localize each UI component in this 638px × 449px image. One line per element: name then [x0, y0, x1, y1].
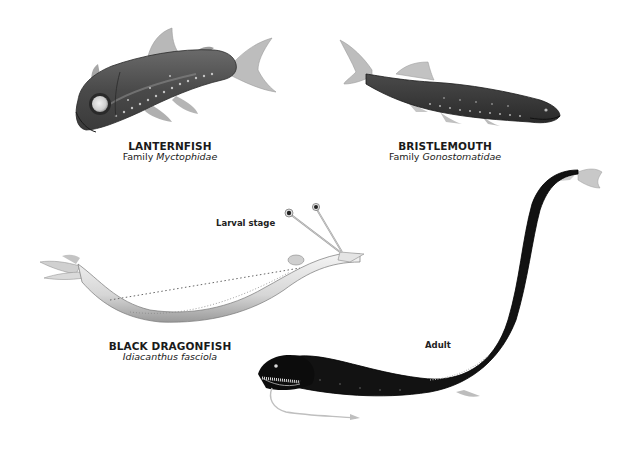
family-prefix: Family [389, 151, 420, 162]
adult-stage-label: Adult [425, 340, 451, 350]
bristlemouth-drawing [340, 40, 560, 126]
lanternfish-drawing [76, 28, 276, 132]
larval-stage-label: Larval stage [216, 218, 275, 228]
lanternfish-family: Family Myctophidae [100, 152, 240, 163]
bristlemouth-label: BRISTLEMOUTH Family Gonostomatidae [370, 140, 520, 163]
family-prefix: Family [123, 151, 154, 162]
dragonfish-larva-drawing [40, 203, 364, 322]
dragonfish-species: Idiacanthus fasciola [100, 352, 240, 363]
bristlemouth-family: Family Gonostomatidae [370, 152, 520, 163]
lanternfish-scientific-name: Myctophidae [156, 151, 217, 162]
dragonfish-adult-drawing [258, 169, 602, 420]
lanternfish-label: LANTERNFISH Family Myctophidae [100, 140, 240, 163]
dragonfish-label: BLACK DRAGONFISH Idiacanthus fasciola [100, 340, 240, 363]
fish-illustration [0, 0, 638, 449]
bristlemouth-scientific-name: Gonostomatidae [422, 151, 501, 162]
dragonfish-scientific-name: Idiacanthus fasciola [123, 351, 217, 362]
